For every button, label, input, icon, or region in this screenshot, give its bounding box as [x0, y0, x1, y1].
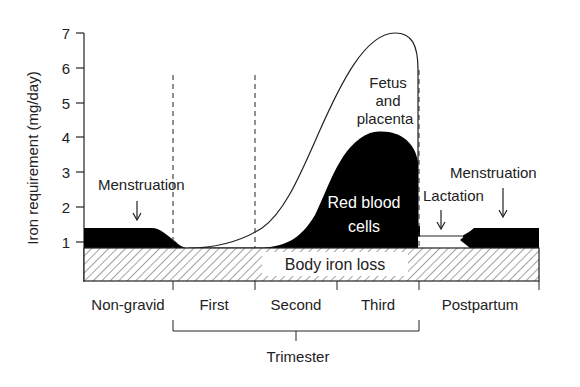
lactation-label: Lactation	[423, 187, 484, 204]
y-tick-7: 7	[62, 25, 70, 42]
x-axis: Non-gravid First Second Third Postpartum	[91, 281, 539, 313]
category-second: Second	[271, 296, 322, 313]
arrow-down-icon	[133, 201, 141, 220]
y-tick-2: 2	[62, 199, 70, 216]
menstruation-right-label: Menstruation	[450, 164, 537, 181]
y-tick-3: 3	[62, 164, 70, 181]
category-third: Third	[361, 296, 395, 313]
y-tick-4: 4	[62, 129, 70, 146]
trimester-bracket: Trimester	[173, 320, 419, 365]
arrow-down-icon	[437, 210, 445, 229]
category-non-gravid: Non-gravid	[91, 296, 164, 313]
fetus-label-1: Fetus	[369, 74, 407, 91]
y-tick-1: 1	[62, 234, 70, 251]
arrow-down-icon	[499, 188, 507, 217]
y-tick-5: 5	[62, 95, 70, 112]
y-tick-6: 6	[62, 60, 70, 77]
fetus-label-2: and	[375, 92, 400, 109]
fetus-label-3: placenta	[357, 110, 414, 127]
rbc-label-2: cells	[348, 218, 380, 235]
body-iron-loss-label: Body iron loss	[285, 256, 386, 273]
rbc-label-1: Red blood	[328, 194, 401, 211]
y-axis: 7 6 5 4 3 2 1 Iron requirement (mg/day)	[24, 25, 84, 282]
menstruation-left-area	[84, 228, 190, 248]
menstruation-left-label: Menstruation	[98, 176, 185, 193]
category-first: First	[199, 296, 229, 313]
iron-requirement-chart: 7 6 5 4 3 2 1 Iron requirement (mg/day) …	[0, 0, 580, 387]
y-axis-label: Iron requirement (mg/day)	[24, 71, 41, 244]
category-postpartum: Postpartum	[442, 296, 519, 313]
trimester-label: Trimester	[267, 348, 330, 365]
lactation-area	[418, 236, 462, 248]
